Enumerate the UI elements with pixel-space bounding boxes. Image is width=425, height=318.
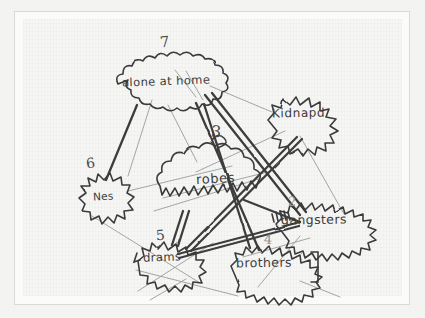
node-shape-robes[interactable] (157, 143, 260, 196)
node-shape-kidnapd[interactable] (268, 97, 338, 156)
edge-nes-to-robes (128, 166, 232, 191)
concept-map-sketch (0, 0, 425, 318)
edge-layer-heavy (106, 93, 306, 258)
edge-alone-at-home-to-nes (106, 105, 137, 180)
edge-brothers-to-gangsters-faint (243, 238, 310, 257)
node-shape-alone-at-home[interactable] (117, 52, 228, 111)
edge-robes-to-drams (172, 211, 183, 245)
edge-home-down-long (128, 100, 152, 176)
edge-robes-to-drams-2 (178, 211, 189, 246)
drams-arrow-icon (134, 253, 140, 262)
edge-gangsters-tail (258, 236, 300, 287)
edge-kidnapd-down-right (300, 136, 344, 214)
edge-kidnapd-to-drams (186, 137, 297, 249)
edge-brothers-to-home-2 (204, 104, 250, 248)
photograph-canvas: alone at home 7 Kidnapd robes 3 Nes 6 ga… (0, 0, 425, 318)
edge-brothers-tail (300, 281, 340, 297)
